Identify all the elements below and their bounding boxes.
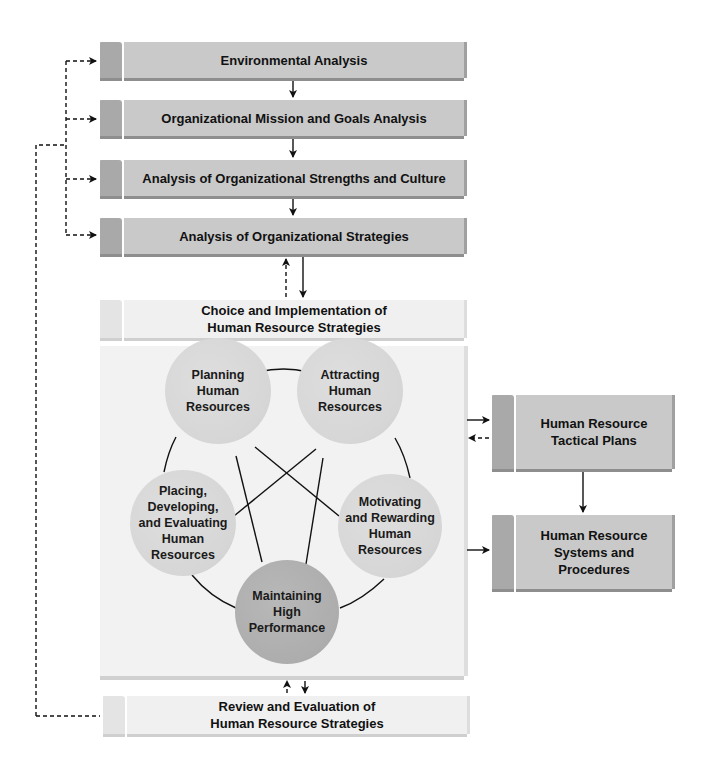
bar-tab bbox=[100, 218, 122, 254]
systems-line-2: Systems and bbox=[541, 544, 648, 561]
review-line-2: Human Resource Strategies bbox=[210, 715, 383, 732]
circle-motivating-rewarding-hr: Motivating and Rewarding Human Resources bbox=[338, 474, 442, 578]
tactical-plans-label: Human Resource Tactical Plans bbox=[516, 395, 672, 469]
bar-tab bbox=[492, 395, 514, 469]
circle-placing-developing-evaluating-hr: Placing, Developing, and Evaluating Huma… bbox=[130, 470, 236, 576]
circle-text: Performance bbox=[249, 620, 325, 636]
step-label: Organizational Mission and Goals Analysi… bbox=[124, 100, 464, 136]
circle-attracting-hr: Attracting Human Resources bbox=[297, 338, 403, 444]
circle-text: Planning bbox=[186, 367, 250, 383]
tactical-plans-box: Human Resource Tactical Plans bbox=[492, 395, 672, 469]
circle-planning-hr: Planning Human Resources bbox=[165, 338, 271, 444]
circle-text: Motivating bbox=[345, 494, 435, 510]
step-strengths-culture-analysis: Analysis of Organizational Strengths and… bbox=[100, 160, 464, 196]
bar-tab bbox=[100, 160, 122, 196]
bar-tab bbox=[100, 300, 122, 338]
tactical-line-2: Tactical Plans bbox=[541, 432, 648, 449]
circle-text: Human bbox=[139, 531, 228, 547]
circle-text: and Rewarding bbox=[345, 510, 435, 526]
systems-line-1: Human Resource bbox=[541, 527, 648, 544]
bar-tab bbox=[100, 100, 122, 136]
circle-maintaining-high-performance: Maintaining High Performance bbox=[235, 560, 339, 664]
circle-text: Resources bbox=[318, 399, 382, 415]
choice-line-1: Choice and Implementation of bbox=[201, 302, 387, 319]
circle-text: Attracting bbox=[318, 367, 382, 383]
choice-implementation-box: Choice and Implementation of Human Resou… bbox=[100, 300, 464, 338]
choice-line-2: Human Resource Strategies bbox=[201, 319, 387, 336]
bar-tab bbox=[492, 515, 514, 589]
circle-text: Human bbox=[186, 383, 250, 399]
circle-text: Human bbox=[318, 383, 382, 399]
circle-text: Resources bbox=[139, 547, 228, 563]
bar-tab bbox=[100, 42, 122, 78]
circle-text: Resources bbox=[186, 399, 250, 415]
review-label: Review and Evaluation of Human Resource … bbox=[127, 696, 467, 734]
circle-text: and Evaluating bbox=[139, 515, 228, 531]
systems-procedures-label: Human Resource Systems and Procedures bbox=[516, 515, 672, 589]
hr-strategy-diagram: Environmental Analysis Organizational Mi… bbox=[0, 0, 704, 778]
step-label: Analysis of Organizational Strategies bbox=[124, 218, 464, 254]
circle-text: High bbox=[249, 604, 325, 620]
step-mission-goals-analysis: Organizational Mission and Goals Analysi… bbox=[100, 100, 464, 136]
tactical-line-1: Human Resource bbox=[541, 415, 648, 432]
systems-line-3: Procedures bbox=[541, 561, 648, 578]
choice-label: Choice and Implementation of Human Resou… bbox=[124, 300, 464, 338]
step-label: Analysis of Organizational Strengths and… bbox=[124, 160, 464, 196]
circle-text: Maintaining bbox=[249, 588, 325, 604]
step-environmental-analysis: Environmental Analysis bbox=[100, 42, 464, 78]
step-label: Environmental Analysis bbox=[124, 42, 464, 78]
circle-text: Human bbox=[345, 526, 435, 542]
bar-tab bbox=[103, 696, 125, 734]
step-strategies-analysis: Analysis of Organizational Strategies bbox=[100, 218, 464, 254]
circle-text: Resources bbox=[345, 542, 435, 558]
circle-text: Placing, bbox=[139, 483, 228, 499]
review-evaluation-box: Review and Evaluation of Human Resource … bbox=[103, 696, 467, 734]
circle-text: Developing, bbox=[139, 499, 228, 515]
systems-procedures-box: Human Resource Systems and Procedures bbox=[492, 515, 672, 589]
review-line-1: Review and Evaluation of bbox=[210, 698, 383, 715]
